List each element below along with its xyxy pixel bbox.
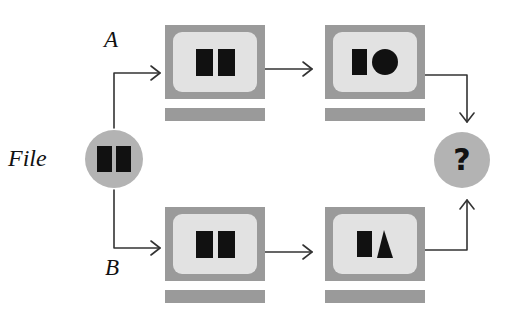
monitor-bezel [165, 25, 265, 99]
file-node-contents [97, 146, 131, 172]
monitor-stand [325, 108, 425, 121]
rectangle-shape [352, 49, 367, 75]
file-node [85, 130, 143, 188]
rectangle-shape [196, 49, 213, 76]
rectangle-shape [357, 231, 372, 257]
branch-b-label: B [105, 255, 119, 281]
edge-b1-to-b2 [265, 245, 312, 259]
circle-shape [372, 49, 398, 75]
monitor-stand [165, 108, 265, 121]
merge-node: ? [434, 132, 490, 188]
monitor-screen [173, 32, 257, 92]
diagram-canvas: File A B [0, 0, 522, 320]
edge-file-to-a [114, 66, 160, 128]
edge-file-to-b [114, 190, 160, 255]
monitor-stand [325, 290, 425, 303]
monitor-a1 [165, 25, 265, 121]
edge-b2-to-merge [424, 200, 474, 250]
rectangle-shape [196, 231, 213, 258]
monitor-a2 [325, 25, 425, 121]
monitor-screen [333, 32, 417, 92]
monitor-screen [333, 214, 417, 274]
monitor-bezel [165, 207, 265, 281]
rectangle-shape [97, 146, 112, 172]
rectangle-shape [218, 231, 235, 258]
monitor-bezel [325, 207, 425, 281]
triangle-shape [377, 230, 393, 258]
monitor-b1 [165, 207, 265, 303]
edge-a1-to-a2 [265, 62, 312, 76]
file-label: File [8, 145, 47, 172]
edge-a2-to-merge [424, 75, 474, 122]
monitor-bezel [325, 25, 425, 99]
rectangle-shape [116, 146, 131, 172]
rectangle-shape [218, 49, 235, 76]
branch-a-label: A [104, 27, 118, 53]
monitor-b2 [325, 207, 425, 303]
monitor-screen [173, 214, 257, 274]
question-mark-label: ? [453, 145, 470, 175]
monitor-stand [165, 290, 265, 303]
